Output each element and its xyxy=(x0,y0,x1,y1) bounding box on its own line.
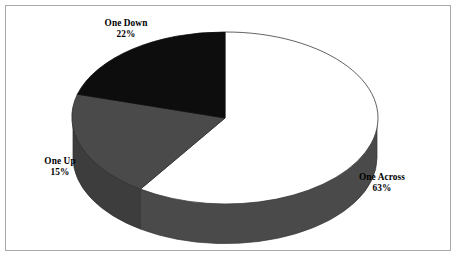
slice-label-one-up-value: 15% xyxy=(12,167,108,178)
slice-label-one-down: One Down 22% xyxy=(72,18,180,41)
slice-label-one-up: One Up 15% xyxy=(12,156,108,179)
slice-label-one-down-value: 22% xyxy=(72,29,180,40)
slice-label-one-across: One Across 63% xyxy=(327,172,437,195)
pie-chart-3d xyxy=(0,0,461,269)
slice-label-one-up-name: One Up xyxy=(12,156,108,167)
slice-label-one-across-value: 63% xyxy=(327,183,437,194)
slice-label-one-down-name: One Down xyxy=(72,18,180,29)
figure-container: One Down 22% One Up 15% One Across 63% xyxy=(0,0,461,269)
caption-strip xyxy=(8,258,448,268)
slice-label-one-across-name: One Across xyxy=(327,172,437,183)
